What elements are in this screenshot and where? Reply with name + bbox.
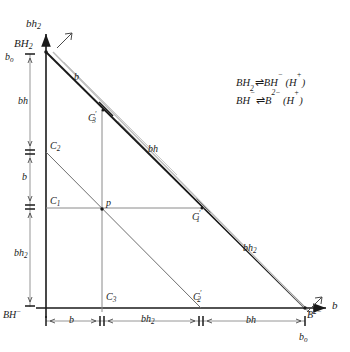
y-segment-bh-label: bh bbox=[18, 96, 28, 106]
point-c2-prime-label: C′2 bbox=[193, 292, 201, 302]
diagram-svg bbox=[0, 0, 350, 352]
y-segment-b-label: b bbox=[22, 172, 27, 182]
hyp-segment-bh-label: bh bbox=[148, 144, 158, 154]
point-c3-label: C3 bbox=[106, 292, 116, 302]
point-c1-prime-label: C′1 bbox=[192, 212, 200, 222]
x-axis-label: b bbox=[332, 300, 338, 311]
x-segment-bh2-label: bh2 bbox=[141, 314, 155, 324]
equilibrium-arrow-icon: ⇌ bbox=[254, 77, 264, 88]
corner-bo-label: bo bbox=[299, 332, 308, 342]
apex-label: BH2 bbox=[14, 38, 33, 49]
y-segment-bh2-label: bh2 bbox=[14, 248, 28, 258]
marker-apex bbox=[44, 50, 48, 54]
origin-label: BH− bbox=[3, 310, 21, 320]
marker-c1-prime bbox=[201, 207, 204, 210]
figure-canvas: bh2 b BH2 bo BH− B2− bo bh b bh2 b bh2 b… bbox=[0, 0, 350, 352]
point-c2-label: C2 bbox=[50, 141, 60, 151]
x-segment-bh-label: bh bbox=[246, 315, 256, 325]
hyp-segment-b-label: b bbox=[74, 72, 79, 82]
marker-c3-prime bbox=[102, 109, 105, 112]
equation-2: BH−⇌B2− (H+) bbox=[236, 92, 303, 106]
point-p-label: p bbox=[106, 198, 111, 208]
point-c3-prime-label: C′3 bbox=[88, 113, 96, 123]
x-segment-b-label: b bbox=[69, 315, 74, 325]
hyp-segment-bh2-label: bh2 bbox=[243, 243, 257, 253]
corner-label: B2− bbox=[307, 310, 322, 320]
marker-p bbox=[100, 207, 103, 210]
construction-diagonal bbox=[46, 152, 201, 308]
point-c1-label: C1 bbox=[50, 196, 60, 206]
equilibrium-arrow-icon-2: ⇌ bbox=[255, 95, 265, 106]
y-axis-label: bh2 bbox=[26, 18, 41, 29]
apex-bo-label: bo bbox=[5, 52, 14, 62]
